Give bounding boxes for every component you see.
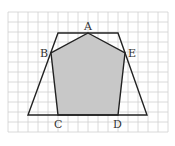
- geometry-diagram: ABECD: [0, 0, 175, 146]
- vertex-label-b: B: [40, 47, 48, 60]
- vertex-label-d: D: [113, 118, 122, 131]
- vertex-label-e: E: [128, 47, 136, 60]
- shaded-pentagon-abcde: [51, 33, 125, 115]
- vertex-label-a: A: [83, 20, 93, 33]
- vertex-label-c: C: [54, 118, 62, 131]
